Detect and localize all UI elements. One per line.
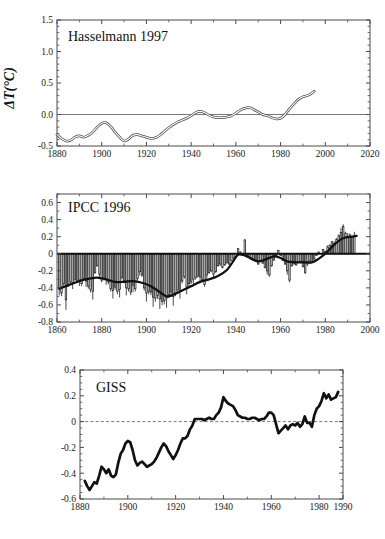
bar [76,254,77,281]
bar [101,254,102,280]
bar [128,254,129,289]
y-tick-label: 1.0 [41,47,53,57]
bar [289,254,290,280]
y-tick-label: -0.2 [38,266,53,276]
bar [130,254,131,292]
bar [300,254,301,262]
bar [83,254,84,279]
y-tick-label: 0.4 [64,365,76,375]
bar [139,254,140,272]
ipcc-plot-area: 18601880190019201940196019802000 -0.8-0.… [38,194,380,335]
x-tick-labels: 18601880190019201940196019802000 [48,325,380,335]
bar [85,254,86,281]
bar [291,254,292,266]
x-tick-label: 1900 [137,325,156,335]
bar [99,254,100,274]
bar [103,254,104,279]
x-tick-label: 2020 [361,149,380,159]
y-tick-labels: -0.8-0.6-0.4-0.200.20.40.6 [38,198,53,327]
bar [220,254,221,264]
bar [166,254,167,298]
bar [110,254,111,289]
bar [188,254,189,284]
bar [164,254,165,301]
bar [208,254,209,273]
bar [217,254,218,266]
giss-svg: 1880190019201940196019801990 -0.6-0.4-0.… [0,356,385,539]
x-tick-label: 1920 [182,325,201,335]
y-tick-label: -0.6 [38,300,53,310]
bar [354,236,355,254]
y-tick-labels: -0.50.00.51.01.5 [38,15,53,151]
x-tick-label: 1960 [262,502,281,512]
bar [197,254,198,276]
y-tick-label: 0 [71,417,76,427]
bar [351,238,352,254]
panel-title-ipcc: IPCC 1996 [68,200,131,215]
bar [226,254,227,263]
y-tick-label: 0.0 [41,110,53,120]
bar [342,226,343,253]
bar [302,254,303,267]
bar [141,254,142,275]
y-tick-label: 0.4 [41,215,53,225]
bar [119,254,120,290]
bar [152,254,153,298]
hasselmann-svg: 18801900192019401960198020002020 -0.50.0… [0,0,385,178]
bar [202,254,203,280]
bar [92,254,93,292]
x-tick-label: 1920 [137,149,156,159]
y-axis-title: ΔT(°C) [2,67,18,110]
bar [112,254,113,291]
bar [195,254,196,278]
bar [74,254,75,280]
bar [97,254,98,266]
bar [65,254,66,300]
bar [211,254,212,271]
bar [146,254,147,293]
y-tick-label: 0 [48,249,53,259]
bar [173,254,174,297]
x-tick-labels: 18801900192019401960198020002020 [48,149,380,159]
bar [222,254,223,268]
bar [137,254,138,279]
x-tick-label: 1960 [226,149,245,159]
chart-panel-giss: 1880190019201940196019801990 -0.6-0.4-0.… [0,356,385,539]
bar [70,254,71,282]
bar [182,254,183,281]
x-tick-label: 1990 [334,502,353,512]
bar [338,236,339,254]
bar [90,254,91,290]
y-tick-label: 0.2 [41,232,53,242]
bar [67,254,68,285]
bar [175,254,176,293]
chart-panel-ipcc: 18601880190019201940196019802000 -0.8-0.… [0,176,385,358]
x-tick-label: 1980 [310,502,329,512]
bar [193,254,194,280]
x-tick-label: 1900 [118,502,137,512]
bar [215,254,216,272]
bar [199,254,200,277]
bar [213,254,214,274]
y-tick-label: 0.6 [41,198,53,208]
x-tick-label: 2000 [316,149,335,159]
bar [179,254,180,291]
bar [117,254,118,292]
y-tick-label: 1.5 [41,15,53,25]
bar [123,254,124,281]
y-tick-label: -0.4 [38,283,53,293]
x-tick-label: 1940 [182,149,201,159]
x-tick-label: 1980 [316,325,335,335]
bar [340,232,341,253]
panel-title-giss: GISS [96,380,126,395]
bar [298,254,299,263]
bar [224,254,225,265]
y-tick-label: 0.5 [41,78,53,88]
bar [266,254,267,271]
bar [135,254,136,289]
y-tick-label: 0.2 [64,391,76,401]
bar [244,240,245,254]
ipcc-svg: 18601880190019201940196019802000 -0.8-0.… [0,176,385,358]
bar [94,254,95,273]
bar [184,254,185,277]
